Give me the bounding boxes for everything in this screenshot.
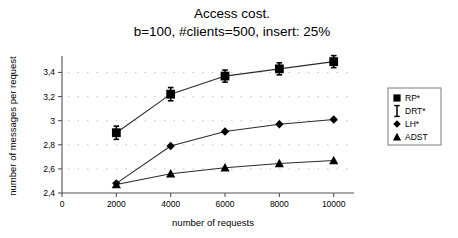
y-tick-label: 3 [50, 116, 55, 126]
grid-dot [222, 120, 223, 121]
grid-dot [327, 168, 328, 169]
grid-dot [318, 72, 319, 73]
grid-dot [116, 168, 117, 169]
grid-dot [298, 120, 299, 121]
grid-dot [106, 120, 107, 121]
grid-dot [106, 144, 107, 145]
grid-dot [241, 144, 242, 145]
legend-label: RP* [405, 93, 421, 103]
grid-dot [250, 96, 251, 97]
x-tick-label: 8000 [270, 199, 289, 209]
grid-dot [78, 144, 79, 145]
grid-dot [279, 168, 280, 169]
grid-dot [337, 168, 338, 169]
grid-dot [116, 120, 117, 121]
grid-dot [298, 96, 299, 97]
grid-dot [78, 120, 79, 121]
grid-dot [68, 96, 69, 97]
grid-dot [250, 120, 251, 121]
grid-dot [183, 168, 184, 169]
grid-dot [318, 144, 319, 145]
grid-dot [231, 72, 232, 73]
x-tick-label: 6000 [216, 199, 235, 209]
grid-dot [202, 168, 203, 169]
y-tick-label: 2,4 [43, 188, 55, 198]
grid-dot [174, 72, 175, 73]
grid-dot [183, 120, 184, 121]
grid-dot [145, 96, 146, 97]
grid-dot [202, 72, 203, 73]
grid-dot [164, 168, 165, 169]
marker-diamond [329, 115, 337, 123]
grid-dot [241, 168, 242, 169]
grid-dot [135, 72, 136, 73]
grid-dot [327, 144, 328, 145]
grid-dot [202, 120, 203, 121]
grid-dot [346, 120, 347, 121]
grid-dot [222, 96, 223, 97]
marker-square [329, 57, 338, 66]
series-adst [112, 156, 339, 188]
chart-title: Access cost. [194, 6, 270, 21]
grid-dot [106, 72, 107, 73]
grid-dot [193, 144, 194, 145]
grid-dot [289, 96, 290, 97]
grid-dot [87, 96, 88, 97]
grid-dot [231, 144, 232, 145]
grid-dot [212, 72, 213, 73]
grid-dot [270, 96, 271, 97]
grid-dot [346, 72, 347, 73]
grid-dot [106, 168, 107, 169]
grid-dot [337, 96, 338, 97]
grid-dot [270, 72, 271, 73]
y-axis-label: number of messages per request [7, 56, 18, 196]
grid-dot [116, 144, 117, 145]
grid-dot [298, 168, 299, 169]
grid-dot [87, 168, 88, 169]
grid-dot [346, 96, 347, 97]
grid-dot [183, 144, 184, 145]
grid-dot [298, 144, 299, 145]
grid-dot [260, 72, 261, 73]
grid-dot [145, 120, 146, 121]
grid-dot [154, 96, 155, 97]
axis-tick-labels: 2,42,62,833,23,40200040006000800010000 [43, 67, 346, 209]
grid-dot [193, 168, 194, 169]
grid-dot [87, 72, 88, 73]
grid-dots [68, 72, 348, 169]
grid-dot [164, 120, 165, 121]
grid-dot [193, 96, 194, 97]
y-tick-label: 2,6 [43, 164, 55, 174]
grid-dot [126, 96, 127, 97]
grid-dot [116, 72, 117, 73]
x-tick-label: 4000 [161, 199, 180, 209]
grid-dot [97, 144, 98, 145]
chart-legend: RP*DRT*LH*ADST [388, 88, 441, 145]
grid-dot [193, 72, 194, 73]
x-tick-label: 0 [60, 199, 65, 209]
y-tick-label: 3,2 [43, 92, 55, 102]
axis-lines [62, 56, 354, 193]
grid-dot [87, 120, 88, 121]
grid-dot [106, 96, 107, 97]
grid-dot [231, 120, 232, 121]
grid-dot [241, 72, 242, 73]
grid-dot [222, 144, 223, 145]
legend-label: LH* [405, 119, 420, 129]
grid-dot [126, 72, 127, 73]
grid-dot [174, 120, 175, 121]
grid-dot [145, 144, 146, 145]
grid-dot [202, 96, 203, 97]
grid-dot [289, 72, 290, 73]
marker-diamond [221, 127, 229, 135]
grid-dot [289, 144, 290, 145]
grid-dot [231, 168, 232, 169]
marker-square [393, 94, 400, 101]
grid-dot [289, 168, 290, 169]
grid-dot [154, 144, 155, 145]
grid-dot [126, 168, 127, 169]
grid-dot [174, 168, 175, 169]
marker-diamond [166, 142, 174, 150]
grid-dot [346, 168, 347, 169]
grid-dot [308, 72, 309, 73]
